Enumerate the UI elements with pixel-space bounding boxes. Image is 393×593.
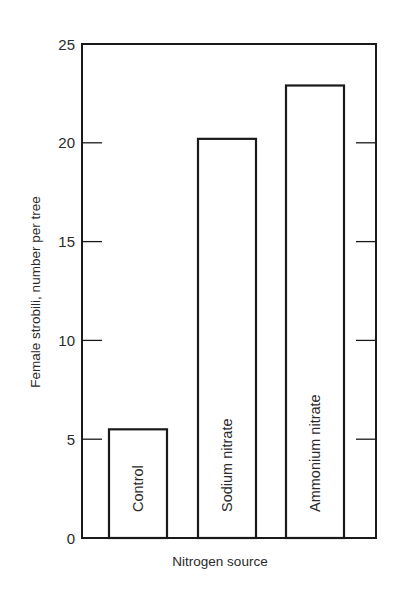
y-tick-label: 15 bbox=[58, 233, 75, 250]
y-tick-label: 10 bbox=[58, 332, 75, 349]
y-axis-title: Female strobili, number per tree bbox=[28, 196, 43, 387]
bar-label: Ammonium nitrate bbox=[307, 394, 323, 512]
bars: ControlSodium nitrateAmmonium nitrate bbox=[109, 85, 344, 538]
bar-label: Sodium nitrate bbox=[219, 419, 235, 513]
bar-control: Control bbox=[109, 429, 167, 538]
y-tick-label: 5 bbox=[67, 431, 75, 448]
x-axis-title: Nitrogen source bbox=[172, 554, 267, 569]
y-tick-label: 25 bbox=[58, 36, 75, 53]
bar-label: Control bbox=[130, 465, 146, 512]
y-tick-label: 20 bbox=[58, 134, 75, 151]
right-axis-ticks bbox=[356, 143, 376, 439]
bar-chart: 0510152025 ControlSodium nitrateAmmonium… bbox=[0, 0, 393, 593]
y-tick-label: 0 bbox=[67, 530, 75, 547]
bar-ammonium-nitrate: Ammonium nitrate bbox=[286, 85, 344, 538]
y-axis-ticks: 0510152025 bbox=[58, 36, 102, 547]
bar-sodium-nitrate: Sodium nitrate bbox=[198, 139, 256, 538]
